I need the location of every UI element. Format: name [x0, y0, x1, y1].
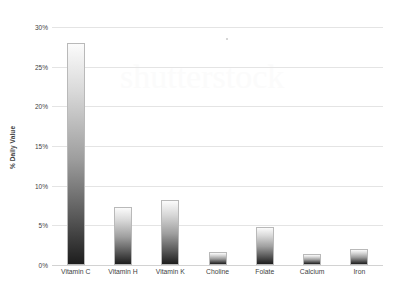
x-axis-tick-labels: Vitamin CVitamin HVitamin KCholineFolate… [52, 268, 383, 288]
y-tick-label: 5% [22, 222, 48, 229]
y-axis-tick-labels: 0%5%10%15%20%25%30% [22, 0, 48, 295]
y-tick-label: 15% [22, 143, 48, 150]
y-axis-title: % Daily Value [4, 0, 22, 295]
gridline [52, 265, 383, 266]
plot-area [52, 27, 383, 265]
y-axis-title-text: % Daily Value [10, 126, 17, 169]
bars-layer [52, 27, 383, 265]
bar-vitamin-c [67, 43, 85, 265]
y-tick-label: 25% [22, 63, 48, 70]
y-tick-label: 20% [22, 103, 48, 110]
x-tick-label: Iron [324, 268, 394, 275]
bar-calcium [303, 254, 321, 265]
bar-choline [209, 252, 227, 265]
y-tick-label: 10% [22, 182, 48, 189]
bar-iron [350, 249, 368, 265]
bar-chart: shutterstock % Daily Value 0%5%10%15%20%… [0, 0, 400, 295]
bar-vitamin-h [114, 207, 132, 265]
bar-folate [256, 227, 274, 265]
bar-vitamin-k [161, 200, 179, 265]
y-tick-label: 30% [22, 24, 48, 31]
